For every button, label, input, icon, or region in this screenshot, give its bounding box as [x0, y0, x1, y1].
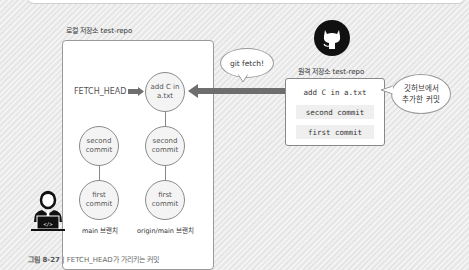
- note-bubble-tail-icon: [381, 85, 393, 95]
- caption-text: FETCH_HEAD가 가리키는 커밋: [67, 256, 159, 264]
- developer-icon: </>: [30, 190, 66, 232]
- remote-commit-second: second commit: [296, 105, 374, 119]
- figure-caption: 그림 8-27 | FETCH_HEAD가 가리키는 커밋: [28, 254, 159, 264]
- commit-node-origin-second: second commit: [145, 126, 185, 166]
- remote-repo-box: add C in a.txt second commit first commi…: [285, 78, 385, 146]
- fetch-head-label: FETCH_HEAD: [74, 87, 126, 96]
- github-commit-note-bubble: 깃허브에서 추가한 커밋: [391, 74, 451, 114]
- figure-number: 그림 8-27: [28, 256, 60, 264]
- commit-link: [99, 166, 100, 180]
- previous-figure-box: [26, 0, 466, 4]
- main-branch-label: main 브랜치: [82, 225, 118, 235]
- commit-node-origin-first: first commit: [145, 180, 185, 220]
- caption-separator: |: [62, 256, 64, 264]
- origin-main-branch-label: origin/main 브랜치: [137, 225, 194, 235]
- remote-commit-first: first commit: [296, 125, 374, 139]
- remote-commit-add-c: add C in a.txt: [296, 85, 374, 99]
- svg-text:</>: </>: [43, 221, 52, 227]
- commit-link: [165, 112, 166, 126]
- github-logo-icon: [314, 20, 350, 56]
- commit-node-main-first: first commit: [79, 180, 119, 220]
- local-repo-label: 로컬 저장소 test-repo: [66, 25, 132, 35]
- fetch-arrow-icon: [188, 84, 296, 98]
- note-line-1: 깃허브에서: [404, 83, 439, 94]
- commit-node-main-second: second commit: [79, 126, 119, 166]
- remote-repo-label: 원격 저장소 test-repo: [298, 66, 364, 76]
- bubble-tail-icon: [238, 74, 248, 82]
- commit-link: [165, 166, 166, 180]
- fetch-head-arrow-icon: [128, 87, 144, 96]
- note-line-2: 추가한 커밋: [402, 94, 439, 105]
- commit-node-origin-add-c: add C in a.txt: [145, 72, 185, 112]
